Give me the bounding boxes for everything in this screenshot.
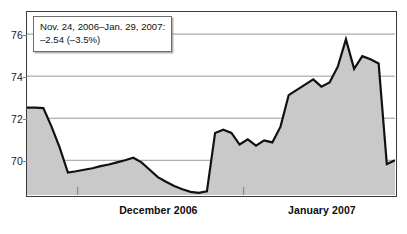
y-axis-tick-mark: [23, 119, 27, 120]
y-axis-tick-labels: 70727476: [0, 0, 23, 234]
y-axis-tick-mark: [23, 161, 27, 162]
y-axis-tick-mark: [23, 77, 27, 78]
y-axis-tick-mark: [23, 35, 27, 36]
y-axis-tick-label: 76: [1, 30, 23, 40]
annotation-callout: Nov. 24, 2006–Jan. 29, 2007: –2.54 (–3.5…: [33, 16, 172, 52]
y-axis-tick-label: 70: [1, 156, 23, 166]
chart-screenshot: 70727476 Nov. 24, 2006–Jan. 29, 2007: –2…: [0, 0, 407, 234]
annotation-line-2: –2.54 (–3.5%): [40, 34, 165, 47]
x-axis-label: January 2007: [288, 204, 356, 216]
x-axis-label: December 2006: [119, 204, 197, 216]
y-axis-tick-label: 74: [1, 72, 23, 82]
annotation-line-1: Nov. 24, 2006–Jan. 29, 2007:: [40, 21, 165, 34]
y-axis-tick-label: 72: [1, 114, 23, 124]
